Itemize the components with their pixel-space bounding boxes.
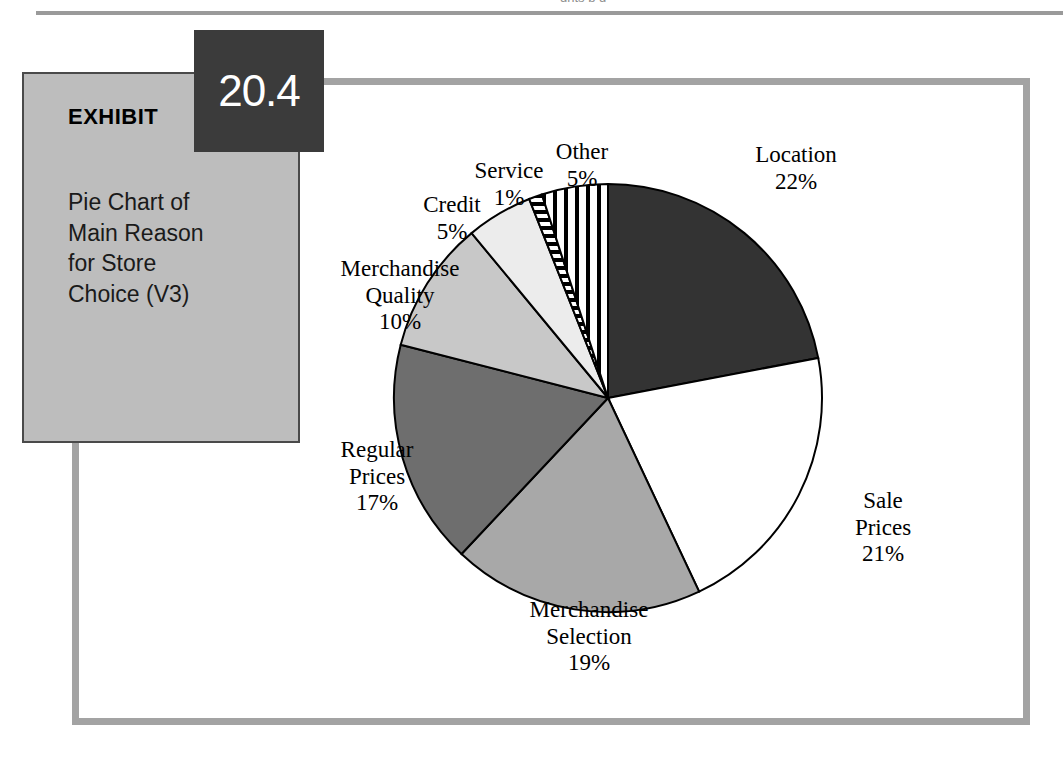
running-head-cut-text: ghts p g: [560, 0, 1060, 2]
exhibit-number: 20.4: [194, 66, 324, 116]
pie-label-location: Location 22%: [736, 142, 856, 195]
pie-label-merchandise-selection: Merchandise Selection 19%: [494, 597, 684, 677]
pie-label-service: Service 1%: [464, 158, 554, 211]
exhibit-label: EXHIBIT: [68, 104, 158, 130]
pie-slice-group: [394, 184, 822, 612]
exhibit-number-badge: 20.4: [194, 30, 324, 152]
running-head-rule: [36, 11, 1063, 15]
exhibit-title: Pie Chart of Main Reason for Store Choic…: [68, 187, 288, 309]
pie-label-other: Other 5%: [542, 139, 622, 192]
pie-label-regular-prices: Regular Prices 17%: [322, 437, 432, 517]
pie-label-sale-prices: Sale Prices 21%: [838, 488, 928, 568]
pie-label-merchandise-quality: Merchandise Quality 10%: [325, 256, 475, 336]
